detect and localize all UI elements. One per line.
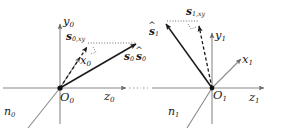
hat-accent-icon: ^	[148, 21, 155, 30]
right-frame-group	[143, 21, 264, 128]
right-z-axis-label: z1	[249, 92, 260, 104]
left-normal-line	[28, 88, 60, 128]
right-sun-vector-label: ^s1	[149, 26, 159, 38]
left-x-axis-label: x0	[80, 55, 91, 67]
left-normal-label: n0	[4, 106, 15, 118]
right-x-axis	[212, 59, 241, 88]
right-origin-label: O1	[213, 90, 227, 102]
carryover-sun-vector-label: ^s0	[136, 51, 146, 63]
left-right-angle-marker	[91, 47, 96, 54]
right-sun-vector	[166, 24, 212, 88]
left-z-axis-label: z0	[104, 91, 115, 103]
right-x-axis-label: x1	[242, 54, 253, 66]
right-y-axis-label: y1	[215, 30, 226, 42]
right-right-angle-marker	[188, 24, 196, 29]
right-projection-vector-label: s1,xy	[186, 6, 205, 18]
right-normal-label: n1	[168, 106, 179, 118]
left-projection-vector-label: s0,xy	[66, 31, 85, 43]
diagram-canvas	[0, 0, 282, 130]
vector-geometry-figure: y0 x0 z0 O0 n0 s0,xy s0 y1 x1 z1 O1 n1 ^…	[0, 0, 282, 130]
right-normal-line	[187, 70, 212, 128]
left-sun-vector-label: s0	[124, 51, 134, 63]
left-origin-label: O0	[60, 92, 74, 104]
hat-accent-icon: ^	[135, 46, 142, 55]
left-y-axis-label: y0	[63, 16, 74, 28]
